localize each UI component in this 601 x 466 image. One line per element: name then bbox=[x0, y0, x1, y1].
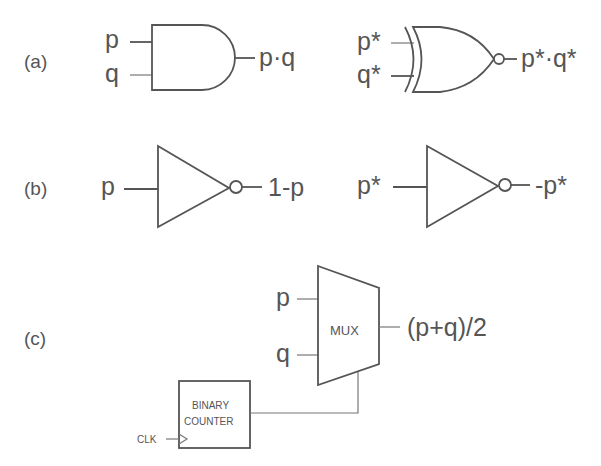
and-gate-body bbox=[152, 25, 235, 90]
inv2-input-label: p* bbox=[357, 171, 381, 199]
and-output-label: p·q bbox=[259, 43, 295, 71]
panel-a-label: (a) bbox=[24, 51, 47, 72]
inv2-bubble bbox=[499, 179, 511, 191]
inv1-input-label: p bbox=[101, 172, 115, 200]
counter-label-line1: BINARY bbox=[192, 400, 229, 411]
inv2-output-label: -p* bbox=[535, 171, 567, 199]
inv1-bubble bbox=[230, 181, 242, 193]
and-input-p: p bbox=[105, 25, 119, 53]
xnor-output-label: p*·q* bbox=[521, 44, 577, 72]
inverter-1: p 1-p bbox=[101, 146, 304, 227]
xnor-input-p: p* bbox=[357, 27, 381, 55]
counter-box bbox=[179, 381, 250, 448]
mux: p q MUX (p+q)/2 bbox=[276, 266, 487, 385]
mux-label: MUX bbox=[330, 323, 359, 338]
mux-input-q: q bbox=[276, 339, 290, 367]
and-input-q: q bbox=[105, 59, 119, 87]
inv1-triangle bbox=[158, 146, 229, 227]
xnor-back-curve bbox=[405, 27, 414, 92]
mux-output-label: (p+q)/2 bbox=[407, 313, 487, 341]
counter-label-line2: COUNTER bbox=[184, 416, 233, 427]
panel-b-label: (b) bbox=[24, 178, 47, 199]
xnor-gate: p* q* p*·q* bbox=[357, 27, 577, 92]
mux-input-p: p bbox=[276, 283, 290, 311]
xnor-input-q: q* bbox=[357, 60, 381, 88]
clk-label: CLK bbox=[137, 434, 157, 445]
and-gate: p q p·q bbox=[105, 25, 295, 90]
select-wire bbox=[250, 372, 358, 413]
xnor-bubble bbox=[494, 54, 504, 64]
inv1-output-label: 1-p bbox=[268, 173, 304, 201]
inv2-triangle bbox=[427, 146, 498, 227]
logic-diagram: (a) p q p·q p* q* p*·q* (b) p 1-p p* bbox=[0, 0, 601, 466]
inverter-2: p* -p* bbox=[357, 146, 567, 227]
panel-c-label: (c) bbox=[24, 328, 46, 349]
xnor-gate-body bbox=[413, 27, 494, 92]
